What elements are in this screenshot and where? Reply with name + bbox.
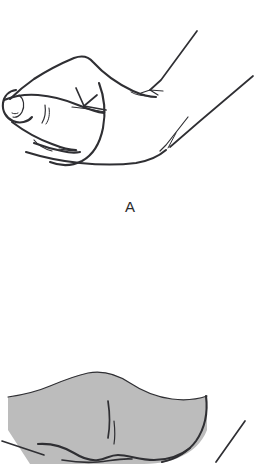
wrist-lower-edge xyxy=(26,150,166,165)
thumbnail-base-tick xyxy=(12,113,18,114)
panel-a-group xyxy=(3,31,253,165)
drape-shaded-region xyxy=(8,372,207,464)
finger-crease-marks xyxy=(42,105,49,124)
instrument-lower-right-icon xyxy=(216,421,245,462)
figure-illustration xyxy=(0,0,260,464)
panel-b-group xyxy=(2,372,245,464)
hand-dorsum-outline xyxy=(10,56,156,99)
instrument-lower-icon xyxy=(160,76,253,151)
figure-page: A xyxy=(0,0,260,464)
panel-a-caption: A xyxy=(0,199,260,214)
instrument-upper-icon xyxy=(141,31,197,95)
index-finger-top xyxy=(4,95,104,113)
